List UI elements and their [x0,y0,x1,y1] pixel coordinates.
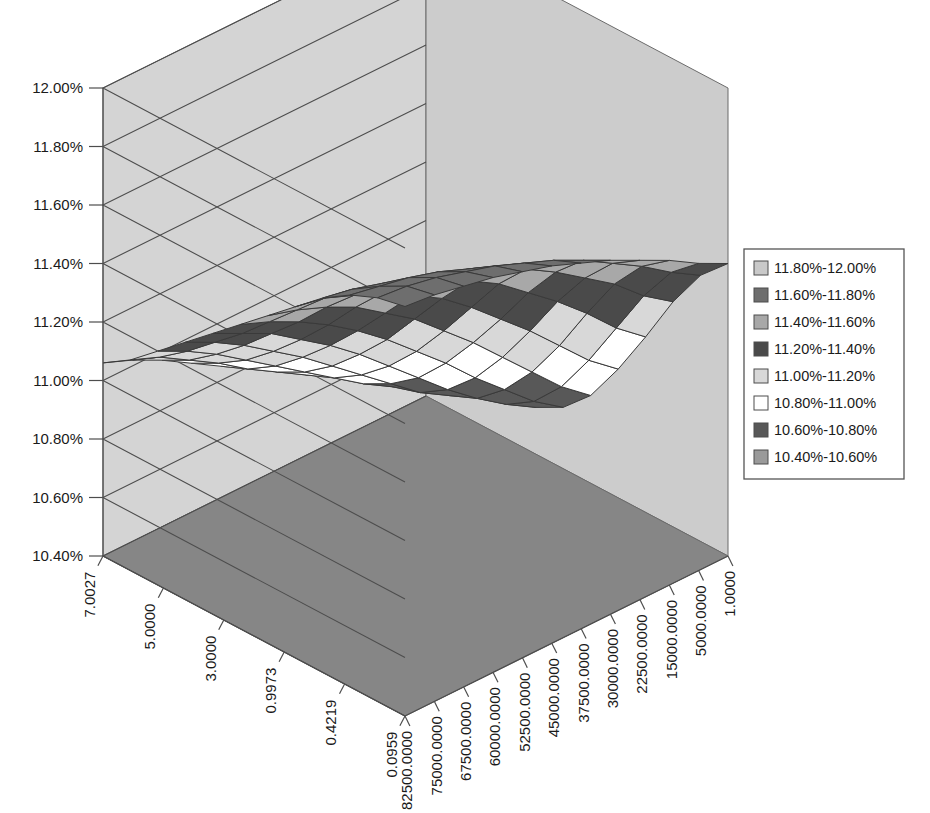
y-axis-tick-label: 5000.0000 [692,585,709,656]
legend-item-label: 11.60%-11.80% [774,287,875,303]
x-axis-tick-mark [340,684,345,694]
chart-canvas: 12.00%11.80%11.60%11.40%11.20%11.00%10.8… [0,0,930,813]
z-axis-tick-label: 11.60% [33,196,83,213]
legend-swatch [754,369,768,383]
legend-swatch [754,423,768,437]
legend-item-label: 11.00%-11.20% [774,368,875,384]
z-axis-tick-label: 12.00% [32,79,83,96]
x-axis-tick-label: 0.0959 [383,732,400,778]
x-axis-tick-mark [219,620,224,630]
x-axis-tick-label: 5.0000 [141,604,158,650]
y-axis-tick-label: 22500.0000 [633,614,650,693]
y-axis-tick-label: 82500.0000 [398,731,415,810]
legend-item-label: 11.40%-11.60% [774,314,875,330]
y-axis-tick-label: 37500.0000 [575,644,592,723]
z-axis-tick-label: 11.80% [33,138,83,155]
z-axis-tick-label: 11.20% [33,313,83,330]
y-axis-tick-mark [434,702,439,712]
legend-swatch [754,450,768,464]
legend-item-label: 11.20%-11.40% [774,341,875,357]
y-axis-tick-label: 15000.0000 [663,600,680,679]
legend-swatch [754,342,768,356]
y-axis-tick-label: 45000.0000 [545,658,562,737]
legend[interactable]: 11.80%-12.00%11.60%-11.80%11.40%-11.60%1… [744,249,904,479]
y-axis-tick-label: 52500.0000 [516,673,533,752]
y-axis-tick-mark [699,571,704,581]
z-axis-tick-label: 10.80% [32,430,83,447]
z-axis-tick-labels: 12.00%11.80%11.60%11.40%11.20%11.00%10.8… [32,79,103,564]
x-axis-tick-mark [98,556,103,566]
x-axis-tick-mark [400,716,405,726]
legend-swatch [754,261,768,275]
legend-swatch [754,396,768,410]
y-axis-tick-mark [464,687,469,697]
x-axis-tick-label: 0.9973 [262,668,279,714]
y-axis-tick-label: 75000.0000 [428,716,445,795]
y-axis-tick-label: 30000.0000 [604,629,621,708]
z-axis-tick-label: 11.40% [33,255,83,272]
x-axis-tick-label: 3.0000 [202,636,219,682]
legend-item-label: 10.80%-11.00% [774,395,876,411]
y-axis-tick-label: 1.0000 [721,571,738,617]
x-axis-tick-mark [158,588,163,598]
x-axis-tick-mark [279,652,284,662]
surface-chart-3d: 12.00%11.80%11.60%11.40%11.20%11.00%10.8… [0,0,930,813]
y-axis-tick-mark [581,629,586,639]
y-axis-tick-mark [611,614,616,624]
legend-item-label: 10.60%-10.80% [774,422,877,438]
legend-box [744,249,904,479]
z-axis-tick-label: 10.60% [32,489,83,506]
legend-item-label: 11.80%-12.00% [774,260,876,276]
y-axis-tick-mark [640,600,645,610]
z-axis-tick-label: 11.00% [33,372,83,389]
y-axis-tick-mark [523,658,528,668]
legend-swatch [754,315,768,329]
y-axis-tick-label: 60000.0000 [486,687,503,766]
y-axis-tick-mark [728,556,733,566]
legend-swatch [754,288,768,302]
y-axis-tick-mark [552,643,557,653]
y-axis-tick-mark [669,585,674,595]
y-axis-tick-mark [405,716,410,726]
x-axis-tick-label: 7.0027 [81,572,98,618]
legend-item-label: 10.40%-10.60% [774,449,877,465]
z-axis-tick-label: 10.40% [32,547,83,564]
y-axis-tick-label: 67500.0000 [457,702,474,781]
y-axis-tick-mark [493,672,498,682]
x-axis-tick-label: 0.4219 [322,700,339,746]
